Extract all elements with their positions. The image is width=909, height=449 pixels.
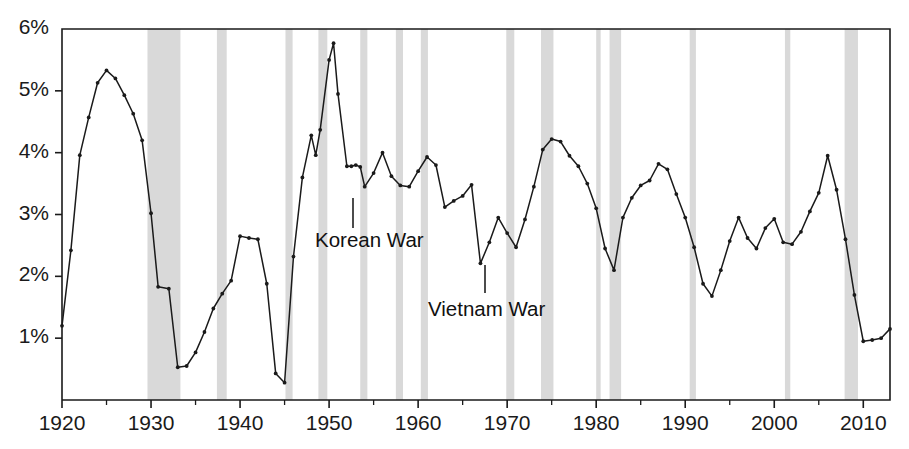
recession-band bbox=[610, 29, 622, 400]
x-axis-label: 1990 bbox=[659, 411, 711, 435]
x-axis-label: 1970 bbox=[481, 411, 533, 435]
y-axis-label: 2% bbox=[0, 262, 49, 286]
data-point bbox=[156, 285, 160, 289]
y-axis-label: 4% bbox=[0, 139, 49, 163]
data-point bbox=[274, 372, 278, 376]
x-axis-label: 1930 bbox=[125, 411, 177, 435]
data-point bbox=[817, 191, 821, 195]
recession-bands-group bbox=[147, 29, 857, 400]
data-point bbox=[229, 279, 233, 283]
data-point bbox=[594, 206, 598, 210]
data-point bbox=[674, 192, 678, 196]
data-point bbox=[559, 140, 563, 144]
data-point bbox=[69, 248, 73, 252]
data-point bbox=[336, 92, 340, 96]
y-axis-label: 1% bbox=[0, 324, 49, 348]
recession-band bbox=[785, 29, 790, 400]
recession-band bbox=[217, 29, 227, 400]
data-point bbox=[211, 307, 215, 311]
data-point bbox=[416, 169, 420, 173]
data-point bbox=[612, 268, 616, 272]
data-point bbox=[358, 165, 362, 169]
data-point bbox=[461, 194, 465, 198]
data-point bbox=[701, 282, 705, 286]
data-point bbox=[746, 236, 750, 240]
data-point bbox=[105, 69, 109, 73]
data-point bbox=[203, 330, 207, 334]
data-point bbox=[808, 210, 812, 214]
data-point bbox=[194, 350, 198, 354]
plot-frame bbox=[62, 29, 890, 400]
recession-band bbox=[541, 29, 553, 400]
data-point bbox=[247, 236, 251, 240]
data-point bbox=[719, 268, 723, 272]
data-point bbox=[772, 217, 776, 221]
y-axis-label: 3% bbox=[0, 201, 49, 225]
recession-band bbox=[690, 29, 696, 400]
data-point bbox=[318, 128, 322, 132]
data-point bbox=[114, 77, 118, 81]
data-point bbox=[185, 364, 189, 368]
data-point bbox=[763, 226, 767, 230]
data-point bbox=[870, 338, 874, 342]
data-point bbox=[657, 162, 661, 166]
data-point bbox=[238, 234, 242, 238]
data-point bbox=[514, 245, 518, 249]
data-point bbox=[487, 240, 491, 244]
recession-band bbox=[396, 29, 403, 400]
data-line-group bbox=[62, 43, 890, 382]
data-point bbox=[381, 151, 385, 155]
recession-band bbox=[360, 29, 367, 400]
data-points-group bbox=[60, 41, 892, 384]
data-point bbox=[568, 154, 572, 158]
data-point bbox=[470, 183, 474, 187]
data-point bbox=[666, 167, 670, 171]
data-point bbox=[728, 239, 732, 243]
data-point bbox=[799, 230, 803, 234]
data-point bbox=[683, 216, 687, 220]
data-point bbox=[149, 211, 153, 215]
data-point bbox=[220, 292, 224, 296]
data-point bbox=[879, 336, 883, 340]
data-point bbox=[710, 294, 714, 298]
data-point bbox=[425, 155, 429, 159]
data-point bbox=[648, 179, 652, 183]
data-point bbox=[327, 58, 331, 62]
data-point bbox=[630, 196, 634, 200]
axis-group bbox=[62, 29, 890, 400]
data-point bbox=[363, 185, 367, 189]
data-point bbox=[621, 216, 625, 220]
data-point bbox=[345, 164, 349, 168]
data-point bbox=[122, 93, 126, 97]
data-point bbox=[861, 339, 865, 343]
data-point bbox=[523, 218, 527, 222]
recession-band bbox=[845, 29, 858, 400]
data-point bbox=[755, 247, 759, 251]
data-point bbox=[479, 261, 483, 265]
data-point bbox=[844, 237, 848, 241]
data-point bbox=[176, 365, 180, 369]
data-point bbox=[790, 242, 794, 246]
data-point bbox=[434, 163, 438, 167]
data-point bbox=[781, 240, 785, 244]
y-axis-label: 5% bbox=[0, 77, 49, 101]
data-line bbox=[62, 43, 890, 382]
data-point bbox=[835, 188, 839, 192]
x-axis-label: 1940 bbox=[214, 411, 266, 435]
x-axis-label: 2010 bbox=[837, 411, 889, 435]
data-point bbox=[496, 216, 500, 220]
chart-figure: 1%2%3%4%5%6% 192019301940195019601970198… bbox=[0, 0, 909, 449]
data-point bbox=[505, 231, 509, 235]
data-point bbox=[541, 148, 545, 152]
data-point bbox=[692, 245, 696, 249]
chart-annotation: Korean War bbox=[315, 228, 424, 252]
x-axis-label: 1950 bbox=[303, 411, 355, 435]
data-point bbox=[96, 81, 100, 85]
data-point bbox=[354, 163, 358, 167]
data-point bbox=[131, 112, 135, 116]
chart-plot-area bbox=[0, 0, 909, 449]
recession-band bbox=[506, 29, 514, 400]
data-point bbox=[603, 247, 607, 251]
data-point bbox=[852, 293, 856, 297]
data-point bbox=[292, 255, 296, 259]
